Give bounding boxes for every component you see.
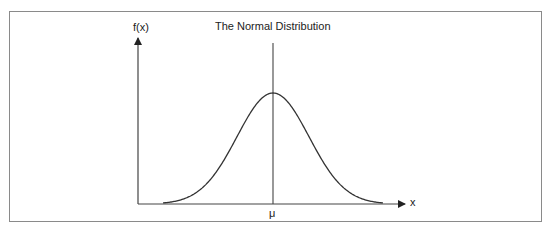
- mean-label: μ: [269, 207, 275, 219]
- y-axis-label: f(x): [133, 21, 149, 33]
- normal-distribution-diagram: [0, 0, 552, 234]
- x-axis-label: x: [410, 196, 416, 208]
- diagram-title: The Normal Distribution: [215, 20, 331, 32]
